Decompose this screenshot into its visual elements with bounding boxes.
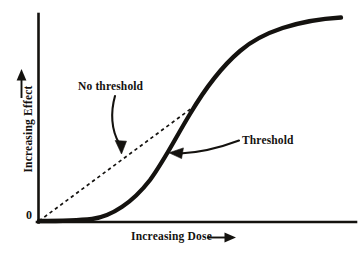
chart-canvas bbox=[0, 0, 362, 262]
x-axis-label: Increasing Dose bbox=[131, 230, 212, 242]
y-axis-label-text: Increasing Effect bbox=[22, 85, 34, 172]
annotation-no-threshold: No threshold bbox=[78, 80, 143, 92]
annotation-threshold: Threshold bbox=[242, 134, 294, 146]
y-axis-label: Increasing Effect bbox=[22, 59, 34, 199]
axis-origin-label: 0 bbox=[26, 208, 32, 223]
dose-response-figure: No threshold Threshold 0 Increasing Dose… bbox=[0, 0, 362, 262]
x-axis-label-text: Increasing Dose bbox=[131, 230, 212, 242]
